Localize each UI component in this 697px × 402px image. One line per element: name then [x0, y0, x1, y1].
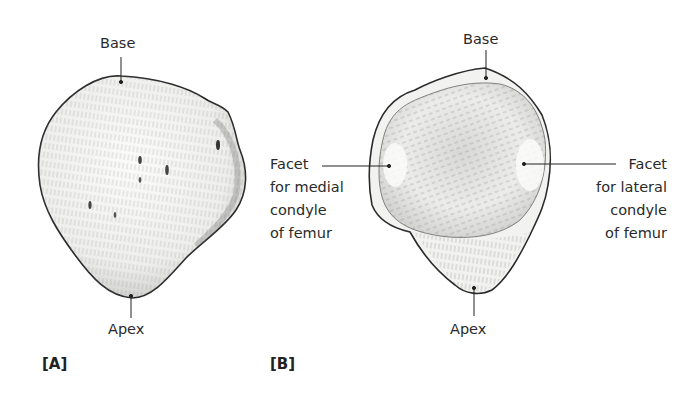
label-base-a: Base: [100, 32, 135, 55]
patella-posterior-view: [369, 68, 550, 293]
label-lateral-facet: Facet for lateral condyle of femur: [596, 153, 667, 245]
label-apex-b: Apex: [450, 318, 486, 341]
patella-illustration: [0, 0, 697, 402]
label-base-b: Base: [463, 28, 498, 51]
label-medial-facet: Facet for medial condyle of femur: [270, 153, 344, 245]
label-apex-a: Apex: [108, 318, 144, 341]
panel-tag-b: [B]: [270, 355, 295, 373]
panel-tag-a: [A]: [42, 355, 67, 373]
patella-anterior-view: [39, 76, 246, 298]
